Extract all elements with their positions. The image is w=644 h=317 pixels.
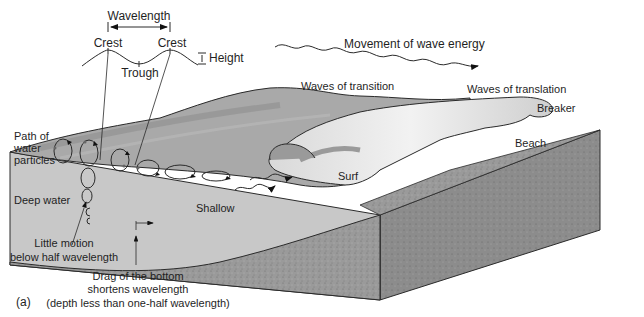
surf-label: Surf bbox=[338, 170, 358, 182]
breaker-label: Breaker bbox=[537, 102, 576, 114]
crest-left-label: Crest bbox=[94, 37, 123, 49]
particle-path-label-3: particles bbox=[14, 154, 55, 166]
particle-path-label-2: water bbox=[14, 142, 41, 154]
waves-of-translation-label: Waves of translation bbox=[467, 83, 566, 95]
little-motion-label-2: below half wavelength bbox=[10, 251, 118, 263]
trough-label: Trough bbox=[121, 67, 159, 79]
crest-right-label: Crest bbox=[158, 37, 187, 49]
drag-label-3: (depth less than one-half wavelength) bbox=[46, 297, 229, 309]
energy-label: Movement of wave energy bbox=[344, 38, 485, 50]
deep-water-label: Deep water bbox=[14, 194, 70, 206]
panel-label: (a) bbox=[16, 296, 31, 308]
particle-path-label-1: Path of bbox=[14, 130, 49, 142]
wavelength-label: Wavelength bbox=[108, 10, 171, 22]
height-label: Height bbox=[209, 52, 244, 64]
drag-label-1: Drag of the bottom bbox=[92, 270, 183, 282]
shallow-label: Shallow bbox=[196, 202, 235, 214]
beach-label: Beach bbox=[515, 137, 546, 149]
wave-diagram: Wavelength Crest Crest Trough Height Mov… bbox=[0, 0, 644, 317]
little-motion-label-1: Little motion bbox=[34, 237, 93, 249]
waves-of-transition-label: Waves of transition bbox=[301, 80, 394, 92]
drag-label-2: shortens wavelength bbox=[88, 283, 189, 295]
